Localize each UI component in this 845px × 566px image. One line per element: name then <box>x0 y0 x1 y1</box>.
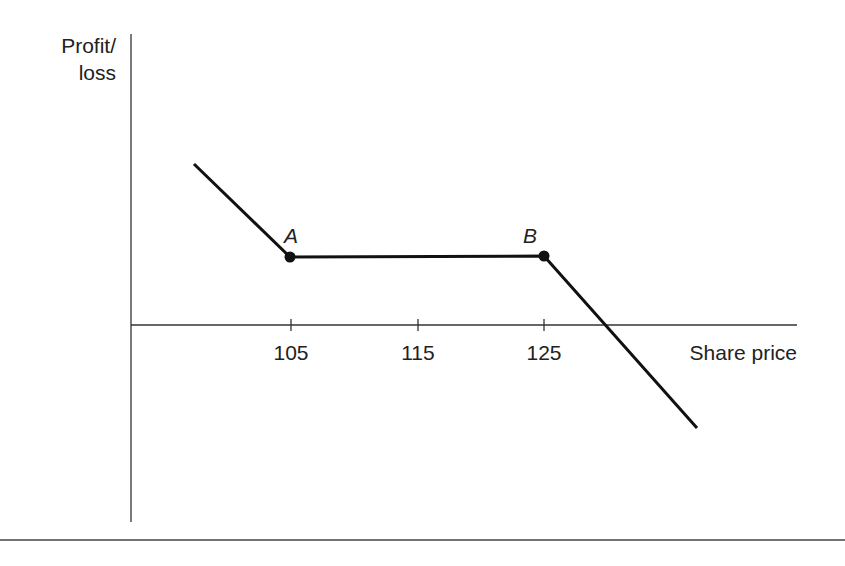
point-b-marker <box>539 251 550 262</box>
y-axis-label-line2: loss <box>79 61 116 84</box>
x-tick-label-125: 125 <box>526 341 561 364</box>
x-tick-label-115: 115 <box>401 341 434 364</box>
y-axis-label-line1: Profit/ <box>61 34 116 57</box>
x-axis-label: Share price <box>690 341 797 364</box>
point-b-label: B <box>523 224 537 247</box>
x-tick-label-105: 105 <box>273 341 308 364</box>
payoff-line <box>194 164 697 428</box>
point-a-label: A <box>282 224 298 247</box>
payoff-chart: 105 115 125 Share price Profit/ loss A B <box>0 0 845 566</box>
point-a-marker <box>285 252 296 263</box>
